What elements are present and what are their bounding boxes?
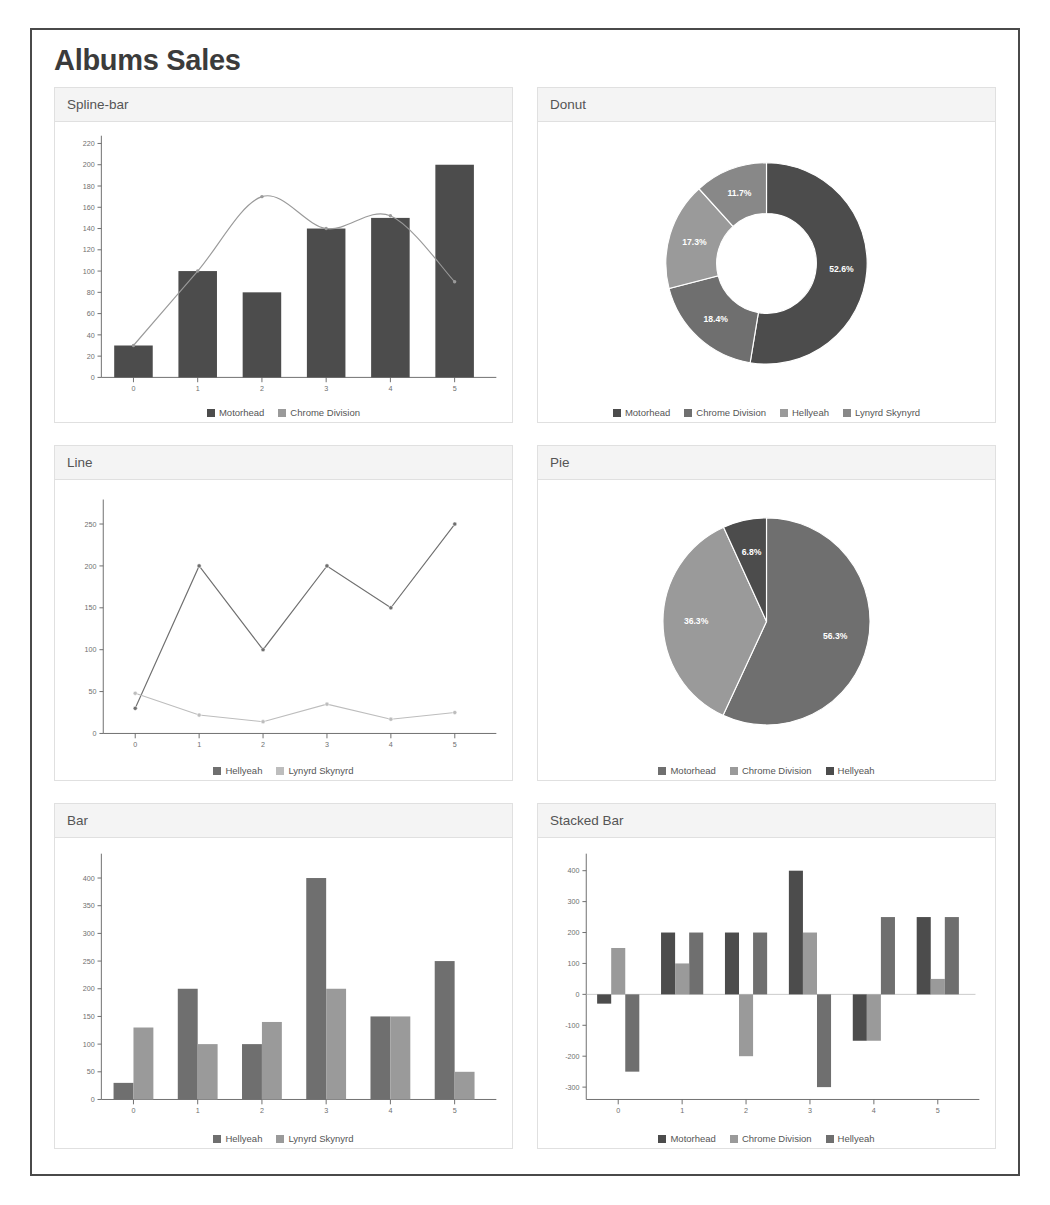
- legend-item[interactable]: Hellyeah: [213, 1133, 262, 1144]
- bar-rect[interactable]: [689, 933, 703, 995]
- chart-spline-bar[interactable]: 020406080100120140160180200220012345 Mot…: [55, 122, 512, 422]
- bar-rect[interactable]: [597, 994, 611, 1003]
- y-tick-label: 80: [87, 288, 95, 297]
- bar-rect[interactable]: [198, 1044, 218, 1099]
- bar-rect[interactable]: [853, 994, 867, 1040]
- line-point[interactable]: [453, 522, 457, 526]
- line-point[interactable]: [389, 717, 393, 721]
- legend-item[interactable]: Motorhead: [658, 765, 715, 776]
- legend-item[interactable]: Motorhead: [658, 1133, 715, 1144]
- legend-item[interactable]: Motorhead: [207, 407, 264, 418]
- bar-svg[interactable]: 050100150200250300350400012345: [63, 844, 504, 1144]
- legend-label: Hellyeah: [225, 765, 262, 776]
- spline-point[interactable]: [453, 280, 456, 283]
- bar-rect[interactable]: [370, 1016, 390, 1099]
- line-point[interactable]: [197, 564, 201, 568]
- x-tick-label: 0: [616, 1106, 620, 1115]
- stacked-bar-svg[interactable]: 4003002001000-100-200-300012345: [546, 844, 987, 1144]
- legend-item[interactable]: Hellyeah: [213, 765, 262, 776]
- chart-donut[interactable]: 52.6%18.4%17.3%11.7% MotorheadChrome Div…: [538, 122, 995, 422]
- bar-rect[interactable]: [326, 989, 346, 1100]
- chart-pie[interactable]: 56.3%36.3%6.8% MotorheadChrome DivisionH…: [538, 480, 995, 780]
- spline-bar-svg[interactable]: 020406080100120140160180200220012345: [63, 128, 504, 418]
- legend-item[interactable]: Lynyrd Skynyrd: [276, 1133, 353, 1144]
- line-point[interactable]: [133, 691, 137, 695]
- bar-rect[interactable]: [390, 1016, 410, 1099]
- line-point[interactable]: [325, 564, 329, 568]
- legend-item[interactable]: Motorhead: [613, 407, 670, 418]
- line-point[interactable]: [389, 606, 393, 610]
- legend-item[interactable]: Lynyrd Skynyrd: [843, 407, 920, 418]
- y-tick-label: 20: [87, 352, 95, 361]
- bar-rect[interactable]: [725, 933, 739, 995]
- bar-rect[interactable]: [371, 218, 410, 378]
- panel-title-donut: Donut: [538, 88, 995, 122]
- bar-rect[interactable]: [917, 917, 931, 994]
- bar-rect[interactable]: [753, 933, 767, 995]
- bar-rect[interactable]: [817, 994, 831, 1087]
- bar-rect[interactable]: [242, 1044, 262, 1099]
- spline-point[interactable]: [196, 269, 199, 272]
- spline-point[interactable]: [324, 227, 327, 230]
- bar-rect[interactable]: [455, 1072, 475, 1100]
- bar-rect[interactable]: [675, 963, 689, 994]
- bar-rect[interactable]: [611, 948, 625, 994]
- chart-line[interactable]: 050100150200250012345 HellyeahLynyrd Sky…: [55, 480, 512, 780]
- bar-rect[interactable]: [435, 165, 474, 378]
- bar-rect[interactable]: [306, 878, 326, 1099]
- bar-rect[interactable]: [931, 979, 945, 994]
- chart-bar[interactable]: 050100150200250300350400012345 HellyeahL…: [55, 838, 512, 1148]
- legend-item[interactable]: Hellyeah: [826, 1133, 875, 1144]
- legend-item[interactable]: Chrome Division: [730, 1133, 812, 1144]
- bar-rect[interactable]: [661, 933, 675, 995]
- donut-svg[interactable]: 52.6%18.4%17.3%11.7%: [546, 128, 987, 418]
- bar-rect[interactable]: [178, 989, 198, 1100]
- x-tick-label: 2: [744, 1106, 748, 1115]
- line-point[interactable]: [261, 720, 265, 724]
- line-point[interactable]: [133, 706, 137, 710]
- panel-donut: Donut 52.6%18.4%17.3%11.7% MotorheadChro…: [537, 87, 996, 423]
- legend-item[interactable]: Chrome Division: [278, 407, 360, 418]
- line-point[interactable]: [453, 710, 457, 714]
- spline-point[interactable]: [132, 344, 135, 347]
- pie-slice[interactable]: [750, 163, 867, 364]
- bar-rect[interactable]: [739, 994, 753, 1056]
- bar-rect[interactable]: [133, 1028, 153, 1100]
- legend-item[interactable]: Lynyrd Skynyrd: [276, 765, 353, 776]
- legend-label: Chrome Division: [742, 1133, 812, 1144]
- line-svg[interactable]: 050100150200250012345: [63, 486, 504, 776]
- line-point[interactable]: [197, 713, 201, 717]
- panel-stacked-bar: Stacked Bar 4003002001000-100-200-300012…: [537, 803, 996, 1149]
- bar-rect[interactable]: [625, 994, 639, 1071]
- legend-item[interactable]: Hellyeah: [826, 765, 875, 776]
- x-tick-label: 5: [453, 1106, 457, 1115]
- bar-rect[interactable]: [262, 1022, 282, 1100]
- bar-rect[interactable]: [435, 961, 455, 1099]
- bar-rect[interactable]: [789, 871, 803, 995]
- line-path[interactable]: [135, 693, 455, 721]
- bar-rect[interactable]: [114, 1083, 134, 1100]
- pie-svg[interactable]: 56.3%36.3%6.8%: [546, 486, 987, 776]
- legend-swatch-icon: [276, 767, 284, 775]
- spline-point[interactable]: [389, 214, 392, 217]
- spline-point[interactable]: [260, 195, 263, 198]
- line-path[interactable]: [135, 524, 455, 708]
- chart-stacked-bar[interactable]: 4003002001000-100-200-300012345 Motorhea…: [538, 838, 995, 1148]
- pie-slice-label: 56.3%: [823, 631, 848, 641]
- legend-item[interactable]: Chrome Division: [684, 407, 766, 418]
- legend-item[interactable]: Chrome Division: [730, 765, 812, 776]
- y-tick-label: 200: [85, 562, 97, 571]
- bar-rect[interactable]: [881, 917, 895, 994]
- bar-rect[interactable]: [243, 292, 282, 377]
- line-point[interactable]: [261, 648, 265, 652]
- x-tick-label: 3: [324, 384, 328, 393]
- bar-rect[interactable]: [803, 933, 817, 995]
- bar-rect[interactable]: [945, 917, 959, 994]
- y-tick-label: 300: [568, 897, 580, 906]
- bar-rect[interactable]: [867, 994, 881, 1040]
- legend-item[interactable]: Hellyeah: [780, 407, 829, 418]
- bar-rect[interactable]: [307, 229, 346, 378]
- bar-rect[interactable]: [114, 346, 153, 378]
- line-point[interactable]: [325, 702, 329, 706]
- y-tick-label: 50: [89, 687, 97, 696]
